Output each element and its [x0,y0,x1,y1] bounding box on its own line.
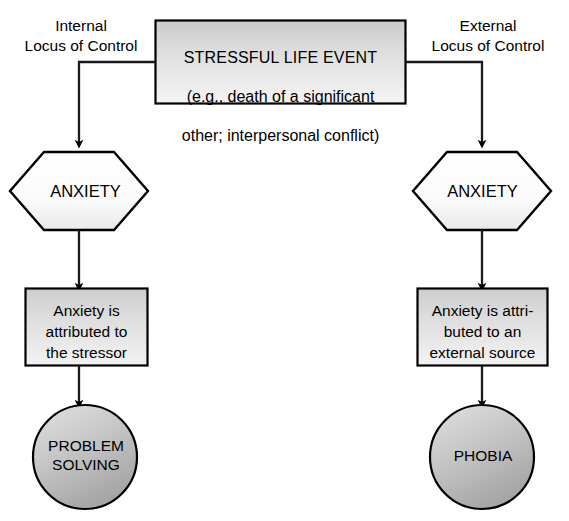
left-attribution-rectangle [26,289,148,366]
heading-external-locus-of-control: External Locus of Control [413,16,563,55]
connector-event-to-left-anxiety [79,62,156,144]
left-anxiety-hexagon [10,152,148,230]
central-event-node [156,21,406,104]
right-outcome-circle [430,405,534,509]
connector-event-to-right-anxiety [406,62,483,144]
right-anxiety-hexagon [413,152,551,230]
left-outcome-circle [33,405,137,509]
flowchart-diagram: Internal Locus of Control External Locus… [0,0,569,521]
flowchart-canvas [0,0,569,521]
right-attribution-rectangle [418,289,548,366]
heading-internal-locus-of-control: Internal Locus of Control [6,16,156,55]
